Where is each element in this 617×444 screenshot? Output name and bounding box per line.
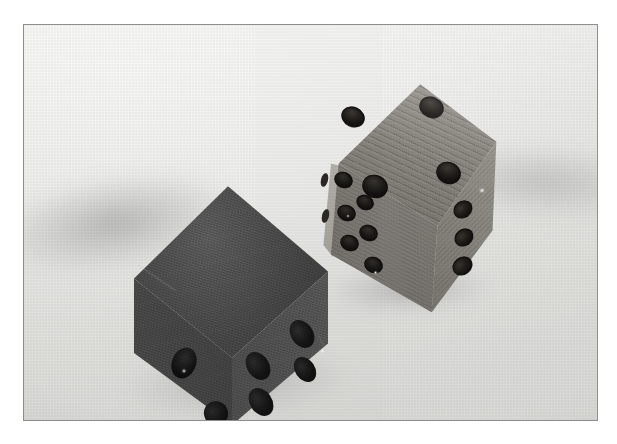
wooden-die [312,77,502,317]
dark-die-surface-texture [128,185,328,421]
photograph-frame [23,24,598,421]
wooden-die-pip-top-1 [338,103,368,131]
dark-die [128,185,328,421]
photo-canvas [0,0,617,444]
